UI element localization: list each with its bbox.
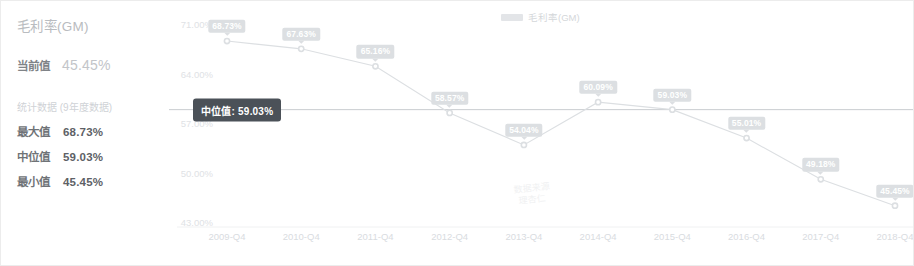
data-point[interactable]	[744, 135, 749, 140]
stat-row-max: 最大值 68.73%	[17, 123, 157, 139]
data-point-label: 58.57%	[431, 92, 468, 105]
stat-label-min: 最小值	[17, 173, 63, 189]
stat-row-median: 中位值 59.03%	[17, 148, 157, 164]
current-value: 45.45%	[62, 57, 111, 73]
stat-value-median: 59.03%	[63, 151, 103, 163]
x-axis-tick: 2015-Q4	[654, 231, 691, 242]
stat-label-max: 最大值	[17, 123, 63, 139]
stats-caption: 统计数据 (9年度数据)	[17, 99, 157, 114]
x-axis-tick: 2009-Q4	[209, 231, 246, 242]
data-point-label: 54.04%	[505, 124, 542, 137]
data-point[interactable]	[670, 107, 675, 112]
x-axis-tick: 2011-Q4	[357, 231, 393, 242]
data-point-label: 60.09%	[579, 81, 616, 94]
median-tooltip: 中位值: 59.03%	[193, 98, 281, 121]
x-axis-tick: 2017-Q4	[802, 231, 839, 242]
chart-area: 毛利率(GM) 数据来源理杏仁 71.00%64.00%57.00%50.00%…	[169, 1, 914, 266]
data-point[interactable]	[299, 46, 304, 51]
data-point-label: 67.63%	[283, 27, 320, 40]
y-axis-tick: 50.00%	[171, 168, 213, 179]
x-axis-tick: 2016-Q4	[728, 231, 765, 242]
data-point-label: 45.45%	[876, 184, 913, 197]
stat-value-max: 68.73%	[63, 126, 103, 138]
data-point[interactable]	[447, 110, 452, 115]
data-point-label: 65.16%	[357, 45, 394, 58]
data-point-label: 59.03%	[654, 88, 691, 101]
y-axis-tick: 43.00%	[171, 217, 213, 228]
data-point-label: 55.01%	[728, 117, 765, 130]
page-title: 毛利率(GM)	[17, 15, 157, 35]
stat-value-min: 45.45%	[63, 176, 103, 188]
data-point-label: 68.73%	[208, 20, 245, 33]
data-point[interactable]	[892, 203, 897, 208]
y-axis-tick: 71.00%	[171, 19, 213, 30]
x-axis-tick: 2018-Q4	[877, 231, 914, 242]
x-axis-tick: 2010-Q4	[283, 231, 320, 242]
data-point[interactable]	[596, 100, 601, 105]
current-value-label: 当前值	[17, 57, 50, 73]
stats-panel: 毛利率(GM) 当前值 45.45% 统计数据 (9年度数据) 最大值 68.7…	[1, 1, 169, 266]
x-axis-tick: 2013-Q4	[505, 231, 542, 242]
data-point[interactable]	[373, 64, 378, 69]
gross-margin-chart-card: 毛利率(GM) 当前值 45.45% 统计数据 (9年度数据) 最大值 68.7…	[0, 0, 914, 266]
watermark: 数据来源理杏仁	[513, 181, 551, 208]
data-point-label: 49.18%	[802, 158, 839, 171]
data-point[interactable]	[224, 38, 229, 43]
data-point[interactable]	[818, 177, 823, 182]
current-value-row: 当前值 45.45%	[17, 57, 157, 73]
data-point[interactable]	[521, 142, 526, 147]
x-axis-tick: 2012-Q4	[431, 231, 468, 242]
stat-row-min: 最小值 45.45%	[17, 173, 157, 189]
x-axis-tick: 2014-Q4	[580, 231, 617, 242]
y-axis-tick: 64.00%	[171, 69, 213, 80]
stat-label-median: 中位值	[17, 148, 63, 164]
